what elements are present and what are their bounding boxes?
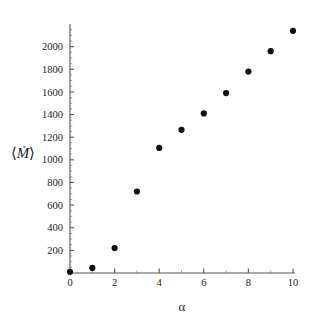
data-point xyxy=(245,68,251,74)
data-point xyxy=(268,48,274,54)
y-tick-label: 200 xyxy=(47,245,63,256)
x-tick-label: 2 xyxy=(112,277,117,288)
scatter-chart: 200400600800100012001400160018002000 024… xyxy=(0,0,313,321)
data-point xyxy=(67,269,73,275)
y-tick-label: 400 xyxy=(47,222,63,233)
y-tick-label: 1600 xyxy=(42,87,63,98)
x-tick-label: 10 xyxy=(288,277,299,288)
data-point xyxy=(201,110,207,116)
data-point xyxy=(178,127,184,133)
data-point xyxy=(223,90,229,96)
y-tick-label: 2000 xyxy=(42,41,63,52)
x-axis-title-label: α xyxy=(179,299,186,314)
y-tick-label: 800 xyxy=(47,177,63,188)
plot-area: 200400600800100012001400160018002000 024… xyxy=(0,0,313,321)
y-axis-title: ⟨Ṁ⟩ xyxy=(11,145,36,161)
x-ticks-layer xyxy=(70,269,293,274)
data-point xyxy=(290,28,296,34)
data-points-layer xyxy=(67,28,296,275)
y-tick-label: 1000 xyxy=(42,154,63,165)
x-tick-label: 6 xyxy=(201,277,206,288)
y-axis-title-label: ⟨Ṁ⟩ xyxy=(11,145,36,161)
x-tick-label: 8 xyxy=(246,277,251,288)
x-tick-labels: 0246810 xyxy=(67,277,298,288)
data-point xyxy=(134,188,140,194)
data-point xyxy=(156,145,162,151)
data-point xyxy=(112,245,118,251)
x-tick-label: 4 xyxy=(157,277,163,288)
x-tick-label: 0 xyxy=(67,277,72,288)
y-tick-label: 600 xyxy=(47,200,63,211)
y-tick-label: 1200 xyxy=(42,132,63,143)
y-label-close-bracket: ⟩ xyxy=(29,145,35,161)
y-tick-label: 1800 xyxy=(42,64,63,75)
y-tick-label: 1400 xyxy=(42,109,63,120)
axes-layer xyxy=(70,24,295,273)
y-ticks-layer xyxy=(70,30,74,268)
data-point xyxy=(89,265,95,271)
y-tick-labels: 200400600800100012001400160018002000 xyxy=(42,41,63,256)
